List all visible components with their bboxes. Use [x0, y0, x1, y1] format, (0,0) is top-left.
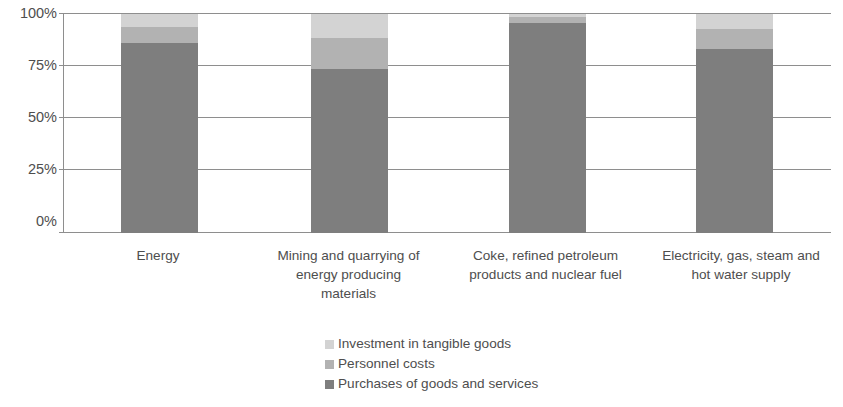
bar-electricity-gas-steam: [696, 14, 773, 233]
y-tick-label: 25%: [5, 162, 57, 177]
bar-segment-purchases: [311, 69, 388, 233]
bar-energy: [121, 14, 198, 233]
legend-swatch-icon: [325, 360, 334, 369]
category-label-line: energy producing: [256, 265, 441, 284]
legend-swatch-icon: [325, 380, 334, 389]
bar-segment-investment: [311, 14, 388, 38]
bar-segment-investment: [696, 14, 773, 29]
bar-segment-personnel: [311, 38, 388, 69]
chart-legend: Investment in tangible goods Personnel c…: [325, 334, 655, 394]
category-label-mining-quarrying: Mining and quarrying of energy producing…: [256, 246, 441, 303]
legend-label: Purchases of goods and services: [338, 376, 538, 392]
legend-item-investment[interactable]: Investment in tangible goods: [325, 334, 655, 354]
category-label-line: Mining and quarrying of: [256, 246, 441, 265]
y-tick-label: 50%: [5, 110, 57, 125]
bar-segment-investment: [121, 14, 198, 27]
legend-label: Investment in tangible goods: [338, 336, 511, 352]
category-label-electricity-gas-steam: Electricity, gas, steam and hot water su…: [643, 246, 839, 284]
bar-segment-personnel: [509, 17, 586, 23]
bar-segment-personnel: [696, 29, 773, 49]
y-tick-50: [59, 117, 64, 118]
bar-mining-quarrying: [311, 14, 388, 233]
category-label-line: products and nuclear fuel: [448, 265, 643, 284]
category-label-energy: Energy: [84, 246, 232, 265]
legend-label: Personnel costs: [338, 356, 435, 372]
legend-item-purchases[interactable]: Purchases of goods and services: [325, 374, 655, 394]
stacked-bar-chart: 100% 75% 50% 25% 0%: [0, 0, 843, 407]
y-tick-25: [59, 169, 64, 170]
bar-segment-investment: [509, 14, 586, 17]
category-label-line: Energy: [84, 246, 232, 265]
category-label-line: hot water supply: [643, 265, 839, 284]
y-tick-0: [59, 232, 64, 233]
bar-segment-personnel: [121, 27, 198, 42]
y-tick-75: [59, 65, 64, 66]
bar-coke-refined-petroleum: [509, 14, 586, 233]
bar-segment-purchases: [121, 43, 198, 234]
y-tick-label: 100%: [5, 6, 57, 21]
y-tick-label: 75%: [5, 58, 57, 73]
y-tick-label: 0%: [5, 214, 57, 229]
legend-swatch-icon: [325, 340, 334, 349]
x-axis-category-labels: Energy Mining and quarrying of energy pr…: [63, 246, 843, 316]
category-label-line: materials: [256, 284, 441, 303]
legend-item-personnel[interactable]: Personnel costs: [325, 354, 655, 374]
bar-segment-purchases: [509, 23, 586, 233]
category-label-coke-refined-petroleum: Coke, refined petroleum products and nuc…: [448, 246, 643, 284]
y-tick-100: [59, 13, 64, 14]
category-label-line: Electricity, gas, steam and: [643, 246, 839, 265]
category-label-line: Coke, refined petroleum: [448, 246, 643, 265]
bar-segment-purchases: [696, 49, 773, 233]
y-axis-labels: 100% 75% 50% 25% 0%: [0, 0, 57, 250]
plot-area: [63, 13, 830, 233]
